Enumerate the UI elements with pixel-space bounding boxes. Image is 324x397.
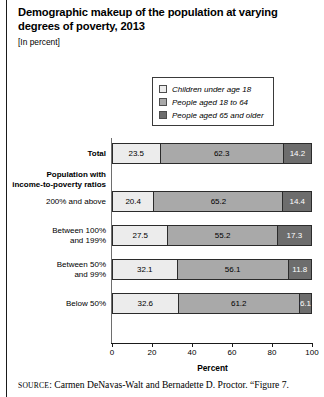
figure-container: Demographic makeup of the population at … — [18, 0, 318, 397]
chart-row-label: Between 50% and 99% — [6, 260, 106, 279]
bar-segment-value: 32.6 — [138, 299, 154, 308]
x-axis-tick-label: 100 — [305, 348, 318, 357]
bar-segment-value: 14.4 — [289, 197, 305, 206]
bar-segment: 14.4 — [282, 192, 311, 211]
bar-segment: 32.1 — [113, 260, 177, 279]
figure-title: Demographic makeup of the population at … — [18, 5, 314, 33]
stacked-bar: 32.156.111.8 — [112, 259, 312, 280]
bar-segment: 55.2 — [167, 226, 276, 245]
bar-segment: 27.5 — [113, 226, 167, 245]
chart-row: Between 50% and 99%32.156.111.8 — [18, 259, 314, 280]
x-axis-tick — [232, 343, 233, 347]
chart-legend: Children under age 18People aged 18 to 6… — [152, 77, 274, 126]
legend-item-label: People aged 18 to 64 — [172, 98, 248, 107]
legend-swatch-icon — [159, 98, 167, 106]
source-note: SOURCE: Carmen DeNavas-Walt and Bernadet… — [18, 379, 318, 391]
bar-segment: 32.6 — [113, 294, 178, 313]
bar-segment: 61.2 — [178, 294, 299, 313]
bar-segment: 62.3 — [160, 144, 283, 163]
bar-segment-value: 17.3 — [287, 231, 303, 240]
legend-swatch-icon — [159, 85, 167, 93]
bar-segment-value: 62.3 — [214, 149, 230, 158]
x-axis-tick — [312, 343, 313, 347]
bar-segment: 11.8 — [288, 260, 311, 279]
x-axis-title: Percent — [112, 363, 313, 373]
x-axis-tick-label: 80 — [268, 348, 277, 357]
legend-item-label: Children under age 18 — [172, 85, 251, 94]
figure-subtitle: [In percent] — [18, 37, 60, 47]
x-axis-line — [111, 343, 312, 344]
bar-segment-value: 6.1 — [300, 299, 311, 308]
axis-group-heading-label: Population with income-to-poverty ratios — [6, 170, 106, 189]
stacked-bar: 20.465.214.4 — [112, 191, 312, 212]
source-label: SOURCE — [18, 381, 49, 390]
stacked-bar: 23.562.314.2 — [112, 143, 312, 164]
x-axis-tick — [152, 343, 153, 347]
plot-area: Population with income-to-poverty ratios… — [18, 138, 314, 353]
legend-item: People aged 18 to 64 — [159, 96, 267, 108]
bar-segment-value: 32.1 — [137, 265, 153, 274]
x-axis-tick-label: 0 — [110, 348, 114, 357]
x-axis-tick — [112, 343, 113, 347]
bar-segment: 56.1 — [177, 260, 288, 279]
bar-segment: 23.5 — [113, 144, 160, 163]
bar-segment: 17.3 — [277, 226, 311, 245]
bar-segment-value: 61.2 — [231, 299, 247, 308]
chart-row-label: Total — [6, 149, 106, 159]
bar-segment: 20.4 — [113, 192, 153, 211]
bar-segment-value: 14.2 — [290, 149, 306, 158]
bar-segment-value: 27.5 — [132, 231, 148, 240]
chart-row: 200% and above20.465.214.4 — [18, 191, 314, 212]
x-axis-tick — [272, 343, 273, 347]
x-axis-tick-label: 60 — [228, 348, 237, 357]
chart-row: Total23.562.314.2 — [18, 143, 314, 164]
stacked-bar: 32.661.26.1 — [112, 293, 312, 314]
bar-segment: 14.2 — [283, 144, 311, 163]
chart-row: Below 50%32.661.26.1 — [18, 293, 314, 314]
chart-row-label: 200% and above — [6, 197, 106, 207]
stacked-bar: 27.555.217.3 — [112, 225, 312, 246]
bar-segment-value: 23.5 — [128, 149, 144, 158]
legend-item: People aged 65 and older — [159, 109, 267, 121]
legend-item-label: People aged 65 and older — [172, 111, 264, 120]
source-citation: : Carmen DeNavas-Walt and Bernadette D. … — [49, 379, 289, 390]
bar-segment-value: 11.8 — [292, 265, 307, 274]
bar-segment-value: 20.4 — [125, 197, 141, 206]
chart-row: Between 100% and 199%27.555.217.3 — [18, 225, 314, 246]
x-axis-tick — [192, 343, 193, 347]
x-axis-tick-label: 20 — [148, 348, 157, 357]
bar-segment-value: 55.2 — [215, 231, 231, 240]
bar-segment: 6.1 — [299, 294, 311, 313]
x-axis-tick-label: 40 — [188, 348, 197, 357]
chart-row-label: Below 50% — [6, 299, 106, 309]
bar-segment-value: 65.2 — [211, 197, 227, 206]
bar-segment-value: 56.1 — [225, 265, 241, 274]
legend-item: Children under age 18 — [159, 83, 267, 95]
legend-swatch-icon — [159, 111, 167, 119]
bar-segment: 65.2 — [153, 192, 282, 211]
chart-row-label: Between 100% and 199% — [6, 226, 106, 245]
